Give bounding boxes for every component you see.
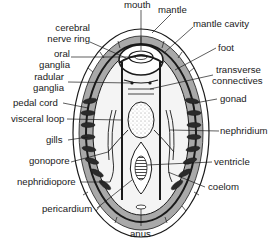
label-oral: oral: [30, 49, 70, 59]
label-gills: gills: [46, 135, 63, 145]
chiton-diagram: mouth mantle mantle cavity cerebral nerv…: [0, 0, 278, 241]
label-coelom: coelom: [208, 182, 239, 192]
label-radular: radular: [20, 72, 64, 82]
label-connectives: connectives: [212, 76, 263, 86]
label-oral-ganglia: ganglia: [30, 60, 70, 70]
label-radular-ganglia: ganglia: [20, 83, 64, 93]
label-pericardium: pericardium: [42, 204, 92, 214]
label-mantle-cavity: mantle cavity: [193, 19, 249, 29]
label-nephridium: nephridium: [220, 126, 267, 136]
label-ventricle: ventricle: [214, 157, 250, 167]
label-gonad: gonad: [220, 94, 247, 104]
label-mouth: mouth: [124, 0, 151, 10]
label-nerve-ring: nerve ring: [36, 34, 90, 44]
label-visceral-loop: visceral loop: [11, 114, 64, 124]
label-gonopore: gonopore: [29, 156, 70, 166]
label-pedal-cord: pedal cord: [13, 98, 58, 108]
label-mantle: mantle: [158, 5, 187, 15]
label-nephridiopore: nephridiopore: [17, 177, 76, 187]
label-transverse: transverse: [216, 65, 261, 75]
label-anus: anus: [130, 229, 151, 239]
label-cerebral: cerebral: [46, 23, 90, 33]
label-foot: foot: [218, 43, 234, 53]
